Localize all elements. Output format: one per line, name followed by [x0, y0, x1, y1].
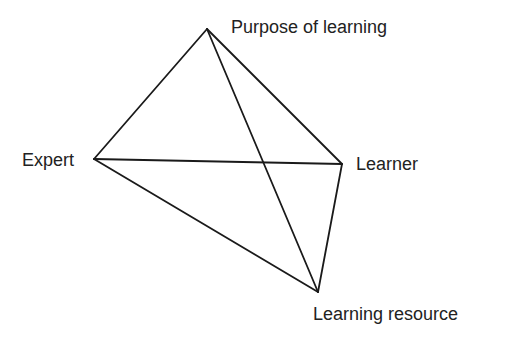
edge-purpose-resource [207, 29, 318, 292]
tetrahedron-diagram: Purpose of learning Expert Learner Learn… [0, 0, 507, 341]
edge-expert-resource [94, 159, 318, 292]
node-label-expert: Expert [22, 151, 74, 169]
node-label-resource: Learning resource [313, 305, 458, 323]
edge-purpose-expert [94, 29, 207, 159]
edge-expert-learner [94, 159, 342, 164]
edge-learner-resource [318, 164, 342, 292]
edge-purpose-learner [207, 29, 342, 164]
node-label-purpose: Purpose of learning [231, 18, 387, 36]
diagram-edges [0, 0, 507, 341]
node-label-learner: Learner [356, 155, 418, 173]
